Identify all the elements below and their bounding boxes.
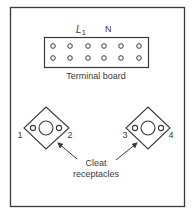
terminal-hole [51,44,56,49]
terminal-4-label: 4 [168,130,173,140]
arrow-to-left-receptacle [58,143,77,159]
terminal-row-top [51,44,142,49]
terminal-hole [51,56,56,61]
terminal-board-label: Terminal board [66,71,126,81]
cleat-receptacle-right [126,107,170,149]
l1-label: L1 [76,24,87,37]
terminal-hole [68,44,73,49]
terminal-hole [68,56,73,61]
terminal-1-label: 1 [17,130,22,140]
terminal-hole [137,56,142,61]
terminal-board [45,38,149,68]
wiring-diagram: L1 N Terminal board 1 2 [0,0,193,218]
arrow-to-right-receptacle [116,143,137,160]
cleat-receptacles-label-line2: receptacles [73,169,120,179]
terminal-3-label: 3 [122,130,127,140]
neutral-label: N [105,24,112,34]
terminal-hole [119,56,124,61]
terminal-hole [137,44,142,49]
terminal-hole [86,44,91,49]
cleat-receptacles-label-line1: Cleat [85,158,107,168]
terminal-2-label: 2 [67,130,72,140]
terminal-row-bottom [51,56,142,61]
terminal-hole [102,44,107,49]
terminal-hole [102,56,107,61]
cleat-receptacle-left [24,107,69,149]
terminal-hole [119,44,124,49]
terminal-hole [86,56,91,61]
